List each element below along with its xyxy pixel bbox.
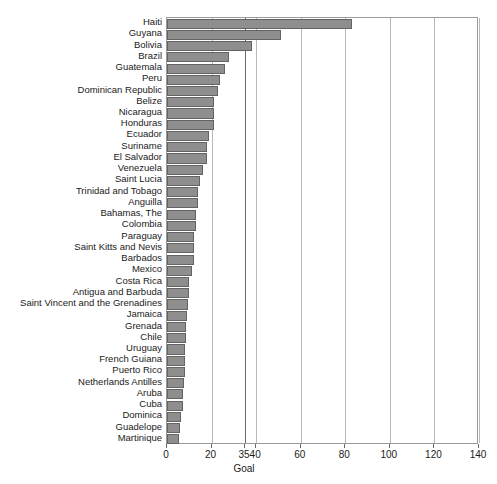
bar [167,367,185,377]
x-tick-mark [166,444,167,448]
bar-row [167,221,479,231]
x-tick-mark [255,444,256,448]
bar [167,221,196,231]
bar [167,187,198,197]
bar-row [167,266,479,276]
category-label: Cuba [0,399,162,409]
bar-row [167,277,479,287]
bar [167,277,189,287]
category-label: Guyana [0,28,162,38]
bar [167,64,225,74]
x-tick-label: 0 [163,449,169,461]
x-tick-label: 120 [425,449,442,461]
category-label: Colombia [0,219,162,229]
bar-row [167,356,479,366]
bar [167,75,220,85]
category-label: Suriname [0,141,162,151]
bar-row [167,153,479,163]
category-label: Guadelope [0,422,162,432]
gridline-140 [479,18,480,443]
category-label: Venezuela [0,163,162,173]
x-tick-label: 40 [250,449,261,461]
category-axis-labels: HaitiGuyanaBoliviaBrazilGuatemalaPeruDom… [0,17,162,444]
bar [167,333,186,343]
bar-row [167,187,479,197]
bar [167,288,189,298]
bar [167,19,352,29]
bar [167,198,198,208]
bar-row [167,412,479,422]
category-label: Saint Lucia [0,174,162,184]
bar [167,412,181,422]
x-tick-label: 35 [238,449,249,461]
bar [167,434,179,444]
category-label: Trinidad and Tobago [0,186,162,196]
category-label: Saint Vincent and the Grenadines [0,298,162,308]
category-label: Uruguay [0,343,162,353]
category-label: Martinique [0,433,162,443]
bar-row [167,389,479,399]
bar [167,86,218,96]
x-tick-label: 80 [339,449,350,461]
bar [167,165,203,175]
category-label: Puerto Rico [0,365,162,375]
bar-row [167,288,479,298]
x-tick-mark [433,444,434,448]
x-tick-label: 20 [205,449,216,461]
category-label: French Guiana [0,354,162,364]
bar [167,52,229,62]
category-label: Costa Rica [0,276,162,286]
bar-row [167,41,479,51]
category-label: Honduras [0,118,162,128]
x-tick-mark [244,444,245,448]
bar-row [167,64,479,74]
x-tick-mark [389,444,390,448]
bar-row [167,198,479,208]
bar [167,401,183,411]
category-label: El Salvador [0,152,162,162]
category-label: Belize [0,96,162,106]
bar [167,356,185,366]
plot-area [166,17,478,444]
bar [167,266,192,276]
category-label: Dominica [0,410,162,420]
bar-row [167,401,479,411]
bar-row [167,322,479,332]
bar [167,210,196,220]
bar-row [167,86,479,96]
x-tick-label: 100 [381,449,398,461]
bar-row [167,210,479,220]
x-tick-mark [344,444,345,448]
bar [167,108,214,118]
bar-row [167,52,479,62]
bar [167,378,184,388]
bar-row [167,344,479,354]
bar-row [167,75,479,85]
bar [167,255,194,265]
x-tick-mark [211,444,212,448]
bar-row [167,333,479,343]
category-label: Jamaica [0,309,162,319]
category-label: Peru [0,73,162,83]
bar [167,243,194,253]
bar-row [167,311,479,321]
category-label: Nicaragua [0,107,162,117]
category-label: Paraguay [0,231,162,241]
bar-row [167,142,479,152]
category-label: Chile [0,332,162,342]
x-axis-title: Goal [233,463,254,475]
bar-row [167,255,479,265]
bar-row [167,97,479,107]
category-label: Aruba [0,388,162,398]
bar [167,153,207,163]
x-tick-label: 140 [470,449,487,461]
bar-row [167,243,479,253]
bar [167,232,194,242]
category-label: Mexico [0,264,162,274]
bar [167,41,252,51]
bar-row [167,423,479,433]
x-tick-mark [300,444,301,448]
x-tick-mark [478,444,479,448]
bar-row [167,176,479,186]
bar-row [167,131,479,141]
